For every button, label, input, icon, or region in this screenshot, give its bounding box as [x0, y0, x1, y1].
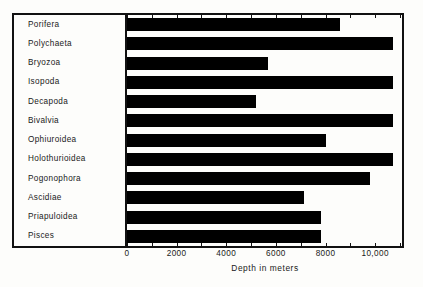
axis-tick: [251, 13, 252, 18]
category-label: Holothurioidea: [28, 155, 86, 163]
category-label: Porifera: [28, 21, 59, 29]
bar: [127, 76, 393, 89]
axis-tick: [226, 13, 227, 18]
x-tick-label: 0: [125, 250, 130, 258]
category-label: Polychaeta: [28, 40, 72, 48]
axis-tick: [276, 243, 277, 248]
category-label-column: PoriferaPolychaetaBryozoaIsopodaDecapoda…: [14, 15, 126, 246]
axis-tick: [350, 243, 351, 248]
x-tick-label: 2000: [167, 250, 187, 258]
axis-tick: [251, 243, 252, 248]
category-label: Bryozoa: [28, 59, 61, 67]
axis-tick: [127, 13, 128, 18]
axis-tick: [152, 13, 153, 18]
bar: [127, 114, 393, 127]
axis-tick: [301, 243, 302, 248]
plot-area: [127, 15, 402, 246]
axis-tick: [400, 13, 401, 18]
category-label: Pogonophora: [28, 175, 81, 183]
bar: [127, 134, 326, 147]
x-tick-label: 4000: [216, 250, 236, 258]
bar: [127, 95, 256, 108]
x-tick-label: 6000: [266, 250, 286, 258]
axis-tick: [152, 243, 153, 248]
axis-tick: [326, 243, 327, 248]
axis-tick: [177, 243, 178, 248]
axis-tick: [201, 243, 202, 248]
axis-tick: [375, 13, 376, 18]
axis-tick: [127, 243, 128, 248]
bar: [127, 211, 321, 224]
bar: [127, 57, 268, 70]
axis-tick: [201, 13, 202, 18]
category-label: Priapuloidea: [28, 213, 78, 221]
category-label: Bivalvia: [28, 117, 59, 125]
x-tick-label: 8000: [316, 250, 336, 258]
axis-tick: [400, 243, 401, 248]
axis-tick: [326, 13, 327, 18]
bar: [127, 37, 393, 50]
x-axis-title: Depth in meters: [231, 264, 298, 272]
category-label: Decapoda: [28, 98, 68, 106]
bar: [127, 153, 393, 166]
axis-tick: [276, 13, 277, 18]
bar: [127, 230, 321, 243]
axis-tick: [375, 243, 376, 248]
bar: [127, 18, 340, 31]
category-label: Ophiuroidea: [28, 136, 76, 144]
chart-screenshot: PoriferaPolychaetaBryozoaIsopodaDecapoda…: [0, 0, 423, 287]
axis-tick: [350, 13, 351, 18]
category-label: Pisces: [28, 232, 54, 240]
category-label: Isopoda: [28, 78, 60, 86]
axis-tick: [226, 243, 227, 248]
bar: [127, 191, 304, 204]
axis-tick: [301, 13, 302, 18]
bar: [127, 172, 370, 185]
axis-tick: [177, 13, 178, 18]
category-label: Ascidiae: [28, 194, 62, 202]
x-tick-label: 10,000: [361, 250, 388, 258]
